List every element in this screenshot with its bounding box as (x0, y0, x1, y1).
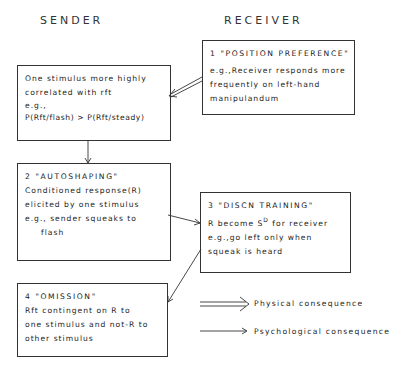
legend-physical-label: Physical consequence (254, 299, 364, 308)
psych-arrow-sender-to-2 (85, 141, 91, 163)
physical-arrow-1-to-sender (169, 77, 202, 97)
connector-arrows (0, 0, 394, 371)
legend-physical-arrow-icon (200, 297, 249, 311)
psych-arrow-2-to-3 (168, 215, 200, 225)
legend-psychological-arrow-icon (200, 328, 247, 334)
psych-arrow-3-to-4 (168, 249, 201, 302)
legend-psychological-label: Psychological consequence (254, 327, 390, 336)
